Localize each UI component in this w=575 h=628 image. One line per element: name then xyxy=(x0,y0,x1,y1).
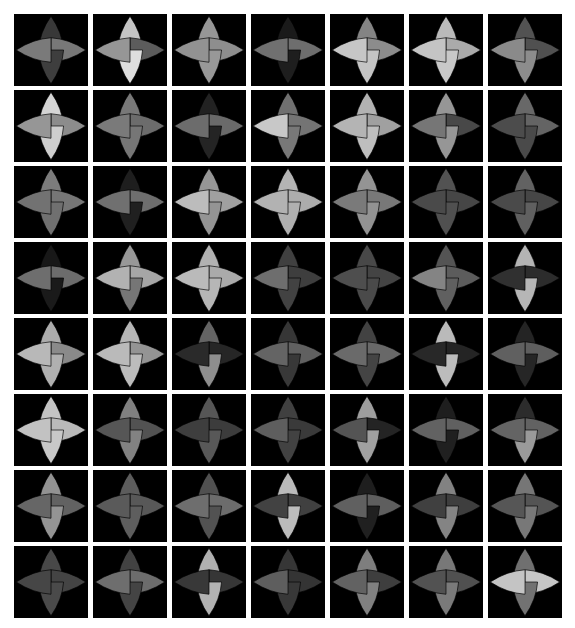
star-tile xyxy=(93,394,167,466)
star-petal-left xyxy=(490,190,525,214)
star-petal-left xyxy=(490,342,525,366)
star-petal-left xyxy=(95,342,130,366)
four-point-star-glyph xyxy=(93,14,167,86)
star-tile xyxy=(14,546,88,618)
star-tile xyxy=(251,470,325,542)
four-point-star-glyph xyxy=(251,242,325,314)
star-tile xyxy=(14,470,88,542)
star-tile xyxy=(93,242,167,314)
star-petal-left xyxy=(411,342,446,366)
four-point-star-glyph xyxy=(172,394,246,466)
star-petal-left xyxy=(332,38,367,62)
star-tile xyxy=(330,166,404,238)
star-petal-left xyxy=(16,570,51,594)
four-point-star-glyph xyxy=(14,242,88,314)
star-tile xyxy=(172,318,246,390)
star-petal-left xyxy=(95,494,130,518)
four-point-star-glyph xyxy=(409,166,483,238)
star-petal-left xyxy=(174,418,209,442)
four-point-star-glyph xyxy=(409,470,483,542)
four-point-star-glyph xyxy=(330,90,404,162)
star-tile xyxy=(93,470,167,542)
star-tile xyxy=(409,90,483,162)
star-tile xyxy=(14,318,88,390)
star-tile xyxy=(488,318,562,390)
star-petal-left xyxy=(332,266,367,290)
four-point-star-glyph xyxy=(330,242,404,314)
star-tile xyxy=(14,394,88,466)
star-tile xyxy=(409,166,483,238)
four-point-star-glyph xyxy=(488,318,562,390)
four-point-star-glyph xyxy=(409,14,483,86)
star-tile xyxy=(251,14,325,86)
star-tile xyxy=(488,166,562,238)
star-tile xyxy=(172,242,246,314)
four-point-star-glyph xyxy=(172,90,246,162)
four-point-star-glyph xyxy=(488,14,562,86)
star-petal-left xyxy=(411,418,446,442)
star-tile xyxy=(14,242,88,314)
four-point-star-glyph xyxy=(330,394,404,466)
star-tile xyxy=(409,470,483,542)
star-petal-left xyxy=(253,266,288,290)
four-point-star-glyph xyxy=(251,394,325,466)
four-point-star-glyph xyxy=(14,470,88,542)
star-tile xyxy=(251,546,325,618)
star-tile xyxy=(93,90,167,162)
four-point-star-glyph xyxy=(172,470,246,542)
four-point-star-glyph xyxy=(93,90,167,162)
star-petal-left xyxy=(16,190,51,214)
star-tile xyxy=(93,166,167,238)
star-tile xyxy=(330,394,404,466)
star-petal-left xyxy=(95,38,130,62)
star-petal-left xyxy=(490,38,525,62)
four-point-star-glyph xyxy=(330,546,404,618)
star-petal-left xyxy=(253,570,288,594)
star-petal-left xyxy=(174,342,209,366)
four-point-star-glyph xyxy=(330,166,404,238)
star-petal-left xyxy=(95,190,130,214)
four-point-star-glyph xyxy=(409,318,483,390)
star-petal-left xyxy=(16,266,51,290)
four-point-star-glyph xyxy=(93,470,167,542)
star-petal-left xyxy=(253,190,288,214)
star-petal-left xyxy=(332,418,367,442)
star-petal-left xyxy=(174,190,209,214)
four-point-star-glyph xyxy=(172,166,246,238)
star-tile xyxy=(251,242,325,314)
star-petal-left xyxy=(16,38,51,62)
star-tile xyxy=(251,166,325,238)
four-point-star-glyph xyxy=(488,470,562,542)
star-tile xyxy=(409,242,483,314)
star-tile xyxy=(409,394,483,466)
star-petal-left xyxy=(16,342,51,366)
four-point-star-glyph xyxy=(488,546,562,618)
four-point-star-glyph xyxy=(251,470,325,542)
star-petal-left xyxy=(332,190,367,214)
four-point-star-glyph xyxy=(409,242,483,314)
four-point-star-glyph xyxy=(93,546,167,618)
star-petal-left xyxy=(490,266,525,290)
star-tile xyxy=(14,90,88,162)
star-tile xyxy=(409,546,483,618)
star-petal-left xyxy=(95,570,130,594)
four-point-star-glyph xyxy=(409,546,483,618)
star-petal-left xyxy=(332,570,367,594)
star-tile xyxy=(330,14,404,86)
four-point-star-glyph xyxy=(488,90,562,162)
star-tile xyxy=(488,394,562,466)
four-point-star-glyph xyxy=(14,394,88,466)
star-tile xyxy=(330,470,404,542)
star-tile xyxy=(251,90,325,162)
four-point-star-glyph xyxy=(172,242,246,314)
four-point-star-glyph xyxy=(93,242,167,314)
star-petal-left xyxy=(411,114,446,138)
star-tile xyxy=(172,90,246,162)
star-tile xyxy=(172,546,246,618)
four-point-star-glyph xyxy=(251,166,325,238)
star-petal-left xyxy=(490,570,525,594)
star-petal-left xyxy=(174,114,209,138)
star-petal-left xyxy=(174,570,209,594)
four-point-star-glyph xyxy=(251,90,325,162)
star-petal-left xyxy=(411,266,446,290)
